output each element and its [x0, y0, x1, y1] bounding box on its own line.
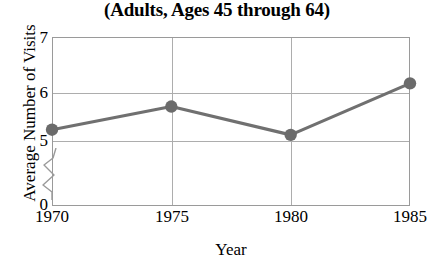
data-point-1975 — [165, 100, 177, 112]
data-series-layer — [0, 0, 429, 268]
data-marker-group — [46, 77, 416, 141]
data-point-1980 — [284, 129, 296, 141]
data-line-average-visits — [52, 83, 410, 135]
data-point-1985 — [404, 77, 416, 89]
chart-figure: (Adults, Ages 45 through 64) Average Num… — [0, 0, 429, 268]
data-point-1970 — [46, 124, 58, 136]
